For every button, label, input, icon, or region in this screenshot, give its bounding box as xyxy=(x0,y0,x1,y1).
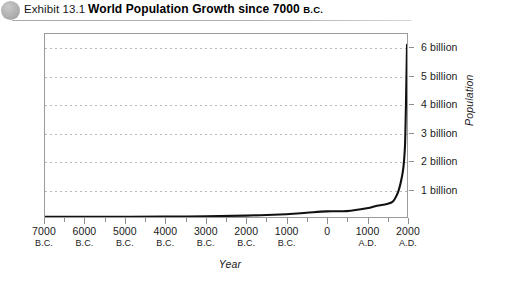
x-axis-tick-label: 3000B.C. xyxy=(194,225,218,249)
x-axis-tick xyxy=(165,218,166,224)
y-axis-tick xyxy=(409,161,414,162)
x-axis-tick-era: B.C. xyxy=(275,237,299,249)
x-axis-tick-label: 5000B.C. xyxy=(113,225,137,249)
y-axis-tick xyxy=(409,76,414,77)
x-axis-tick-year: 1000 xyxy=(356,225,380,237)
exhibit-bullet-circle-icon xyxy=(1,1,20,20)
x-axis-minor-tick xyxy=(186,218,187,222)
y-axis-tick-label: 5 billion xyxy=(421,70,458,82)
exhibit-title-era: B.C. xyxy=(303,4,323,15)
y-axis-title: Population xyxy=(463,74,475,126)
x-axis-tick-label: 6000B.C. xyxy=(73,225,97,249)
x-axis-tick-label: 1000B.C. xyxy=(275,225,299,249)
x-axis-ticks xyxy=(44,218,409,224)
x-axis-minor-tick xyxy=(347,218,348,222)
exhibit-title-main: World Population Growth since 7000 xyxy=(88,2,303,16)
y-axis-tick-label: 1 billion xyxy=(421,184,458,196)
x-axis-tick xyxy=(84,218,85,224)
x-axis-minor-tick xyxy=(388,218,389,222)
x-axis-minor-tick xyxy=(307,218,308,222)
exhibit-number-label: Exhibit 13.1 xyxy=(24,3,85,15)
x-axis-tick-label: 0 xyxy=(324,225,330,237)
x-axis-tick-era: B.C. xyxy=(153,237,177,249)
y-axis-tick xyxy=(409,190,414,191)
x-axis-tick-label: 1000A.D. xyxy=(356,225,380,249)
x-axis-tick-year: 5000 xyxy=(113,225,137,237)
x-axis-tick-label: 2000A.D. xyxy=(396,225,420,249)
x-axis-minor-tick xyxy=(266,218,267,222)
x-axis-tick-year: 2000 xyxy=(396,225,420,237)
y-axis-tick-label: 3 billion xyxy=(421,127,458,139)
y-axis-tick xyxy=(409,133,414,134)
x-axis-tick-year: 3000 xyxy=(194,225,218,237)
y-axis-tick-label: 2 billion xyxy=(421,155,458,167)
x-axis-tick xyxy=(368,218,369,224)
x-axis-tick-year: 4000 xyxy=(153,225,177,237)
x-axis-tick xyxy=(44,218,45,224)
x-axis-minor-tick xyxy=(64,218,65,222)
x-axis-tick-era: B.C. xyxy=(194,237,218,249)
x-axis-minor-tick xyxy=(105,218,106,222)
x-axis-tick xyxy=(246,218,247,224)
x-axis-tick-year: 6000 xyxy=(73,225,97,237)
exhibit-header: Exhibit 13.1 World Population Growth sin… xyxy=(0,0,513,22)
x-axis-labels: 7000B.C.6000B.C.5000B.C.4000B.C.3000B.C.… xyxy=(0,225,513,253)
x-axis-tick-era: A.D. xyxy=(396,237,420,249)
x-axis-tick xyxy=(408,218,409,224)
x-axis-tick-year: 7000 xyxy=(32,225,56,237)
y-axis-tick xyxy=(409,104,414,105)
chart-plot-area xyxy=(44,33,408,218)
x-axis-tick-year: 2000 xyxy=(234,225,258,237)
population-curve xyxy=(45,34,407,217)
y-axis-tick-label: 6 billion xyxy=(421,41,458,53)
x-axis-tick xyxy=(327,218,328,224)
x-axis-tick xyxy=(206,218,207,224)
x-axis-tick-era: A.D. xyxy=(356,237,380,249)
x-axis-tick-year: 1000 xyxy=(275,225,299,237)
x-axis-minor-tick xyxy=(226,218,227,222)
header-divider xyxy=(12,20,411,21)
x-axis-tick-label: 4000B.C. xyxy=(153,225,177,249)
x-axis-tick-era: B.C. xyxy=(113,237,137,249)
exhibit-figure: Exhibit 13.1 World Population Growth sin… xyxy=(0,0,513,286)
y-axis-tick xyxy=(409,47,414,48)
x-axis-tick xyxy=(125,218,126,224)
x-axis-tick-era: B.C. xyxy=(73,237,97,249)
x-axis-title: Year xyxy=(0,258,460,270)
x-axis-tick-era: B.C. xyxy=(32,237,56,249)
x-axis-tick-year: 0 xyxy=(324,225,330,237)
y-axis-tick-label: 4 billion xyxy=(421,98,458,110)
x-axis-tick xyxy=(287,218,288,224)
x-axis-tick-label: 7000B.C. xyxy=(32,225,56,249)
x-axis-minor-tick xyxy=(145,218,146,222)
x-axis-tick-era: B.C. xyxy=(234,237,258,249)
exhibit-title: World Population Growth since 7000 B.C. xyxy=(88,2,323,16)
x-axis-tick-label: 2000B.C. xyxy=(234,225,258,249)
